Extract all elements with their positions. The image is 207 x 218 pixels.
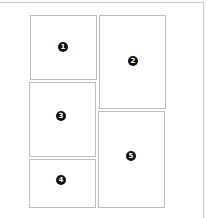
badge-2: 2	[128, 56, 138, 66]
badge-4: 4	[56, 175, 66, 185]
frame-right-border	[203, 2, 204, 218]
badge-3: 3	[56, 111, 66, 121]
frame-top-border	[0, 2, 204, 3]
badge-5: 5	[126, 151, 136, 161]
badge-1: 1	[58, 42, 68, 52]
